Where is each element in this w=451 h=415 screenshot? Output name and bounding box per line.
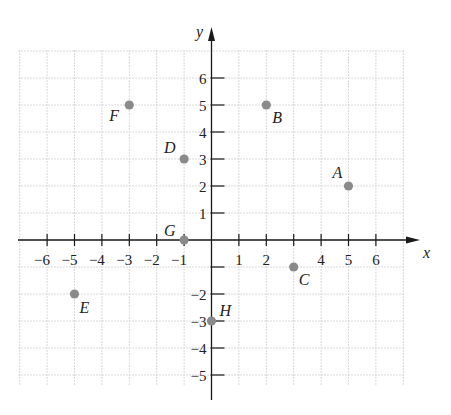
data-point-c bbox=[289, 262, 298, 271]
y-tick-label: 1 bbox=[199, 206, 207, 222]
y-tick-label: −5 bbox=[191, 368, 207, 384]
point-label-b: B bbox=[272, 109, 282, 126]
y-tick-label: 4 bbox=[199, 125, 207, 141]
point-label-g: G bbox=[164, 222, 176, 239]
x-tick-label: −3 bbox=[116, 252, 132, 268]
x-tick-label: 5 bbox=[345, 252, 353, 268]
point-label-a: A bbox=[332, 164, 343, 181]
coordinate-plane: xy−6−5−4−3−2−112456−5−4−3−2123456ABCDEFG… bbox=[0, 0, 451, 415]
data-point-a bbox=[344, 181, 353, 190]
point-label-c: C bbox=[299, 271, 310, 288]
x-tick-label: −6 bbox=[34, 252, 50, 268]
x-tick-label: 4 bbox=[317, 252, 325, 268]
data-point-e bbox=[70, 289, 79, 298]
y-axis-label: y bbox=[194, 23, 204, 41]
x-tick-label: −2 bbox=[144, 252, 160, 268]
x-tick-label: 6 bbox=[372, 252, 380, 268]
point-label-e: E bbox=[79, 299, 90, 316]
point-label-d: D bbox=[163, 139, 176, 156]
y-tick-label: −3 bbox=[191, 314, 207, 330]
data-point-d bbox=[180, 154, 189, 163]
y-tick-label: 2 bbox=[199, 179, 207, 195]
x-axis-arrow-icon bbox=[406, 237, 420, 244]
x-tick-label: −5 bbox=[62, 252, 78, 268]
data-point-h bbox=[207, 316, 216, 325]
y-tick-label: −4 bbox=[191, 341, 207, 357]
x-axis-label: x bbox=[422, 244, 430, 261]
y-tick-label: 3 bbox=[199, 152, 207, 168]
x-tick-label: −4 bbox=[89, 252, 105, 268]
point-label-h: H bbox=[219, 302, 233, 319]
x-tick-label: −1 bbox=[171, 252, 187, 268]
x-tick-label: 1 bbox=[235, 252, 243, 268]
y-axis-arrow-icon bbox=[208, 27, 215, 41]
plot-svg: xy−6−5−4−3−2−112456−5−4−3−2123456ABCDEFG… bbox=[0, 0, 451, 415]
y-tick-label: 6 bbox=[199, 71, 207, 87]
y-tick-label: 5 bbox=[199, 98, 207, 114]
data-point-b bbox=[262, 100, 271, 109]
data-point-f bbox=[125, 100, 134, 109]
point-label-f: F bbox=[108, 107, 119, 124]
y-tick-label: −2 bbox=[191, 287, 207, 303]
x-tick-label: 2 bbox=[263, 252, 271, 268]
data-point-g bbox=[180, 235, 189, 244]
